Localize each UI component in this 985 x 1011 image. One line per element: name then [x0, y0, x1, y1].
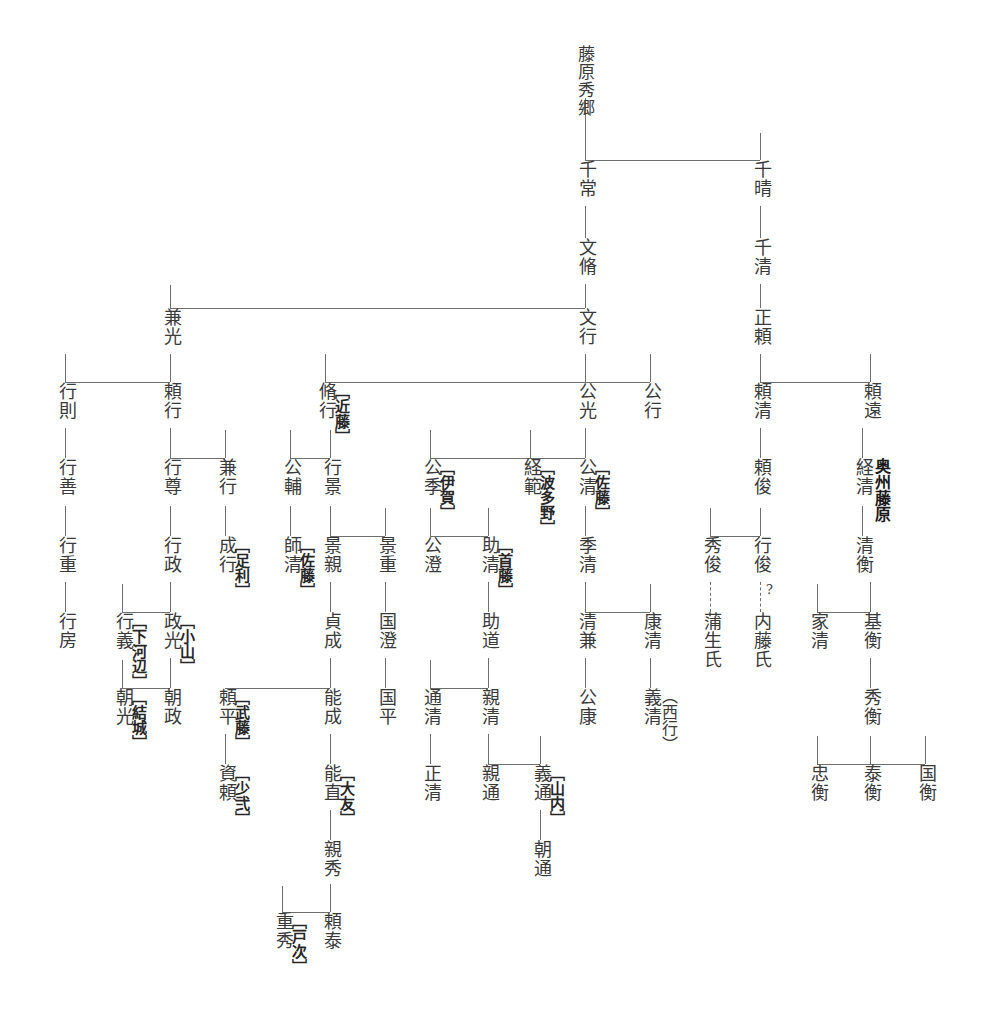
clan-tag: ［伊賀］	[439, 460, 454, 520]
person-node[interactable]: 能成	[321, 688, 340, 726]
person-name: 清衡	[853, 536, 872, 574]
person-node[interactable]: 景重	[376, 536, 395, 574]
person-node[interactable]: 千晴	[751, 160, 770, 198]
person-node[interactable]: 国衡	[916, 764, 935, 802]
person-node[interactable]: 朝光［結城］	[113, 688, 146, 750]
person-node[interactable]: 頼泰	[321, 912, 340, 950]
person-node[interactable]: 兼行	[216, 458, 235, 496]
clan-tag: ［波多野］	[539, 460, 554, 535]
person-node[interactable]: 頼遠	[861, 382, 880, 420]
person-node[interactable]: 文脩	[576, 238, 595, 276]
person-node[interactable]: 兼光	[161, 308, 180, 346]
connector-vertical-dashed	[760, 582, 761, 612]
person-node[interactable]: 文行	[576, 308, 595, 346]
connector-horizontal	[585, 160, 760, 161]
person-node[interactable]: 行尊	[161, 458, 180, 496]
person-node[interactable]: 成行［足利］	[216, 536, 249, 598]
person-node[interactable]: 秀衡	[861, 688, 880, 726]
connector-vertical	[290, 430, 291, 458]
person-node[interactable]: 千常	[576, 160, 595, 198]
person-node[interactable]: 忠衡	[808, 764, 827, 802]
person-node[interactable]: 清衡	[853, 536, 872, 574]
person-node[interactable]: 公清［佐藤］	[576, 458, 609, 520]
person-node[interactable]: 重秀［戸次］	[273, 912, 306, 974]
person-node[interactable]: 蒲生氏	[701, 612, 720, 669]
clan-tag: ［佐藤］	[594, 460, 609, 520]
connector-vertical	[65, 428, 66, 458]
person-node[interactable]: 脩行［近藤］	[316, 382, 349, 444]
connector-vertical	[760, 284, 761, 308]
person-node[interactable]: 経範［波多野］	[521, 458, 554, 535]
person-node[interactable]: 家清	[808, 612, 827, 650]
person-node[interactable]: 季清	[576, 536, 595, 574]
person-node[interactable]: 国澄	[376, 612, 395, 650]
person-node[interactable]: 行重	[56, 536, 75, 574]
connector-vertical-dashed	[710, 582, 711, 612]
person-name: 頼行	[161, 382, 180, 420]
person-node[interactable]: 行政	[161, 536, 180, 574]
person-node[interactable]: 公輔	[281, 458, 300, 496]
person-node[interactable]: 通清	[421, 688, 440, 726]
person-node[interactable]: 経清奥州藤原	[853, 458, 889, 522]
person-node[interactable]: 行景	[321, 458, 340, 496]
connector-vertical	[282, 886, 283, 912]
person-node[interactable]: 正頼	[751, 308, 770, 346]
connector-vertical	[170, 582, 171, 612]
person-node[interactable]: 朝政	[161, 688, 180, 726]
connector-vertical	[225, 506, 226, 536]
person-node[interactable]: 公光	[576, 382, 595, 420]
person-node[interactable]: 行則	[56, 382, 75, 420]
person-name: 頼平	[216, 688, 235, 726]
person-node[interactable]: 基衡	[861, 612, 880, 650]
person-node[interactable]: 公季［伊賀］	[421, 458, 454, 520]
person-node[interactable]: 秀俊	[701, 536, 720, 574]
person-node[interactable]: 貞成	[321, 612, 340, 650]
person-node[interactable]: 義通［山内］	[531, 764, 564, 826]
clan-tag: ［首藤］	[497, 538, 512, 598]
person-node[interactable]: 頼平［武藤］	[216, 688, 249, 750]
connector-vertical	[488, 734, 489, 764]
person-node[interactable]: 助道	[479, 612, 498, 650]
person-node[interactable]: 行俊	[751, 536, 770, 574]
person-node[interactable]: 頼清	[751, 382, 770, 420]
person-node[interactable]: 朝通	[531, 840, 550, 878]
person-name: 行重	[56, 536, 75, 574]
person-name: 秀俊	[701, 536, 720, 574]
person-node[interactable]: 公行	[641, 382, 660, 420]
person-node[interactable]: 親秀	[321, 840, 340, 878]
person-node[interactable]: 公澄	[421, 536, 440, 574]
person-node[interactable]: 康清	[641, 612, 660, 650]
person-name: 行俊	[751, 536, 770, 574]
person-node[interactable]: 能直［大友］	[321, 764, 354, 826]
person-node[interactable]: 公康	[576, 688, 595, 726]
connector-vertical	[817, 736, 818, 764]
person-node[interactable]: 国平	[376, 688, 395, 726]
person-node[interactable]: 親通	[479, 764, 498, 802]
person-node[interactable]: 藤原秀郷	[576, 45, 594, 117]
person-node[interactable]: 清兼	[576, 612, 595, 650]
person-node[interactable]: 行義［下河辺］	[113, 612, 146, 689]
person-node[interactable]: 千清	[751, 238, 770, 276]
person-name: 家清	[808, 612, 827, 650]
person-node[interactable]: 資頼［少弐］	[216, 764, 249, 826]
person-node[interactable]: 泰衡	[861, 764, 880, 802]
person-name: 公行	[641, 382, 660, 420]
person-node[interactable]: 助清［首藤］	[479, 536, 512, 598]
connector-vertical	[385, 658, 386, 688]
person-node[interactable]: 景親	[321, 536, 340, 574]
person-node[interactable]: 行房	[56, 612, 75, 650]
person-node[interactable]: 行善	[56, 458, 75, 496]
person-node[interactable]: 頼俊	[751, 458, 770, 496]
person-node[interactable]: 義清（西行）	[641, 688, 676, 752]
person-node[interactable]: 親清	[479, 688, 498, 726]
person-node[interactable]: 正清	[421, 764, 440, 802]
person-node[interactable]: 政光［小山］	[161, 612, 194, 674]
connector-vertical	[330, 734, 331, 764]
person-name: 藤原秀郷	[576, 45, 594, 117]
person-node[interactable]: 師清［佐藤］	[281, 536, 314, 598]
connector-vertical	[330, 658, 331, 688]
person-node[interactable]: 頼行	[161, 382, 180, 420]
person-node[interactable]: 内藤氏	[751, 612, 770, 669]
connector-vertical	[65, 506, 66, 536]
person-name: 蒲生氏	[701, 612, 720, 669]
